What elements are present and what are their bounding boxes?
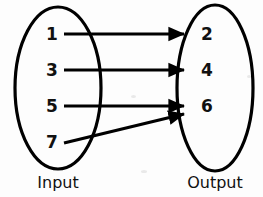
mapping-diagram-canvas: 1 3 5 7 2 4 6 Input Output bbox=[0, 0, 263, 197]
input-set-ellipse bbox=[15, 7, 101, 169]
input-element-5: 5 bbox=[46, 96, 58, 116]
output-element-2: 2 bbox=[201, 24, 213, 44]
input-element-7: 7 bbox=[46, 132, 58, 152]
output-element-4: 4 bbox=[201, 60, 213, 80]
input-set-label: Input bbox=[37, 173, 78, 192]
output-set-ellipse bbox=[177, 5, 253, 171]
output-element-6: 6 bbox=[201, 96, 213, 116]
mapping-arrow-7-to-6 bbox=[64, 114, 184, 143]
input-element-1: 1 bbox=[46, 24, 58, 44]
input-element-3: 3 bbox=[46, 60, 58, 80]
mapping-diagram: 1 3 5 7 2 4 6 Input Output bbox=[0, 0, 263, 197]
output-set-label: Output bbox=[187, 173, 243, 192]
